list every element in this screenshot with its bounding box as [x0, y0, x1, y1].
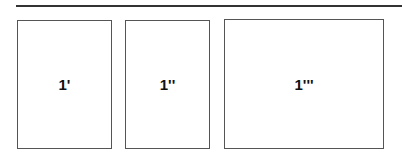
- box-label: 1': [59, 76, 71, 93]
- box-1-triple-prime: 1''': [224, 19, 384, 149]
- box-label: 1''': [294, 76, 313, 93]
- box-label: 1'': [160, 76, 175, 93]
- box-1-prime: 1': [17, 20, 112, 149]
- box-1-double-prime: 1'': [125, 20, 210, 149]
- top-rule: [16, 5, 402, 7]
